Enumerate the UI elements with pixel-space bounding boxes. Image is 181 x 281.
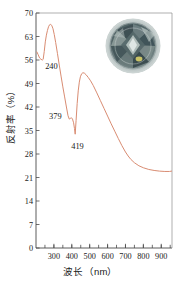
y-tick-label: 14 xyxy=(25,197,33,206)
peak-annotation-379: 379 xyxy=(49,112,62,121)
y-tick-label: 56 xyxy=(25,56,33,65)
x-tick-label: 600 xyxy=(101,252,113,261)
x-tick-label: 300 xyxy=(48,252,60,261)
x-tick-label: 900 xyxy=(155,252,167,261)
x-tick-label: 800 xyxy=(137,252,149,261)
y-tick-label: 70 xyxy=(25,9,33,18)
x-axis-ticks: 300400500600700800900 xyxy=(45,244,170,261)
y-axis-title: 反射率（%） xyxy=(3,73,17,157)
y-tick-label: 0 xyxy=(29,244,33,253)
y-tick-label: 35 xyxy=(25,127,33,136)
reflectance-spectrum-figure: 07142128354249566370 3004005006007008009… xyxy=(0,0,181,281)
peak-annotation-419: 419 xyxy=(71,142,84,151)
gemstone-photo xyxy=(105,18,161,74)
y-axis-ticks: 07142128354249566370 xyxy=(25,9,40,253)
y-tick-label: 7 xyxy=(29,221,33,230)
x-tick-label: 400 xyxy=(66,252,78,261)
y-tick-label: 63 xyxy=(25,33,33,42)
x-axis-title: 波长（nm） xyxy=(0,264,181,278)
y-tick-label: 42 xyxy=(25,103,33,112)
y-tick-label: 28 xyxy=(25,150,33,159)
y-tick-label: 49 xyxy=(25,80,33,89)
annotation-layer: 240379419 xyxy=(45,62,84,151)
x-tick-label: 500 xyxy=(84,252,96,261)
peak-annotation-240: 240 xyxy=(45,62,58,71)
x-tick-label: 700 xyxy=(119,252,131,261)
y-tick-label: 21 xyxy=(25,174,33,183)
